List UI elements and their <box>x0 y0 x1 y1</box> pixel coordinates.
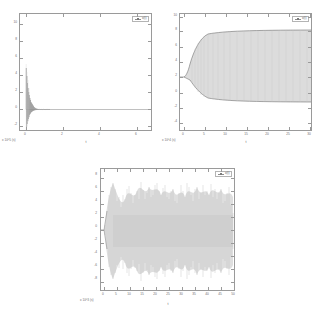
ytick <box>180 108 183 109</box>
xtick <box>226 14 227 17</box>
panel-top-left-axes[interactable]: x(t) <box>19 13 152 131</box>
ytick <box>148 24 151 25</box>
ytick <box>20 75 23 76</box>
xtick <box>26 127 27 130</box>
panel-top-right-plot <box>180 14 311 130</box>
xtick <box>195 287 196 290</box>
xtick <box>247 14 248 17</box>
legend-label: x(t) <box>302 17 306 20</box>
ytick <box>180 62 183 63</box>
ytick-label: 8 <box>2 38 17 41</box>
legend-line-swatch <box>135 19 141 20</box>
ytick <box>231 217 234 218</box>
xtick <box>205 14 206 17</box>
ytick <box>20 126 23 127</box>
ytick <box>180 17 183 18</box>
xtick <box>143 287 144 290</box>
xtick-label: 4 <box>98 133 100 136</box>
ytick <box>20 58 23 59</box>
xtick <box>268 14 269 17</box>
xtick <box>195 169 196 172</box>
panel-top-right: x(t) 0 5 10 15 20 25 30 <box>160 0 319 150</box>
xtick-label: 5 <box>203 133 205 136</box>
x-axis-exponent: x 10^5 (s) <box>2 138 16 142</box>
ytick <box>148 126 151 127</box>
xtick <box>169 287 170 290</box>
ytick-label: 2 <box>81 212 97 215</box>
legend-line-swatch <box>295 19 301 20</box>
ytick-label: 10 <box>2 21 17 24</box>
ytick <box>148 109 151 110</box>
ytick <box>308 31 311 32</box>
xtick <box>234 287 235 290</box>
ytick <box>231 243 234 244</box>
legend-label: x(t) <box>225 172 229 175</box>
x-axis-exponent: x 10^4 (s) <box>162 138 176 142</box>
ytick-label: 0 <box>2 106 17 109</box>
ytick <box>101 217 104 218</box>
legend-line-swatch <box>218 174 224 175</box>
xtick <box>169 169 170 172</box>
ytick-label: -6 <box>81 264 97 267</box>
xtick <box>208 169 209 172</box>
xtick-label: 15 <box>244 133 248 136</box>
ytick-label: -4 <box>81 251 97 254</box>
panel-bottom-axes[interactable]: x(t) <box>100 168 235 291</box>
ytick <box>231 204 234 205</box>
xtick <box>289 127 290 130</box>
ytick <box>308 123 311 124</box>
xtick <box>226 127 227 130</box>
xtick <box>156 287 157 290</box>
panel-top-left-plot <box>20 14 151 130</box>
xtick-label: 10 <box>127 293 131 296</box>
xtick-label: 30 <box>307 133 311 136</box>
xtick <box>221 287 222 290</box>
x-axis-label: t <box>246 140 247 144</box>
ytick <box>101 256 104 257</box>
xtick <box>143 169 144 172</box>
ytick-label: 4 <box>2 72 17 75</box>
xtick <box>137 127 138 130</box>
ytick <box>20 92 23 93</box>
xtick-label: 25 <box>166 293 170 296</box>
ytick <box>101 204 104 205</box>
ytick-label: -2 <box>162 105 177 108</box>
panel-top-right-legend[interactable]: x(t) <box>292 16 309 22</box>
xtick-label: 20 <box>153 293 157 296</box>
ytick <box>180 31 183 32</box>
xtick <box>182 287 183 290</box>
ytick <box>180 123 183 124</box>
ytick-label: 2 <box>2 89 17 92</box>
xtick <box>184 127 185 130</box>
xtick <box>268 127 269 130</box>
xtick <box>100 14 101 17</box>
xtick <box>63 127 64 130</box>
panel-top-left: x(t) 0 2 4 6 -2 0 2 4 6 8 10 x 10^ <box>0 0 159 150</box>
xtick-label: 10 <box>223 133 227 136</box>
xtick <box>289 14 290 17</box>
ytick-label: -2 <box>2 123 17 126</box>
xtick-label: 15 <box>140 293 144 296</box>
ytick-label: 4 <box>162 59 177 62</box>
panel-top-right-axes[interactable]: x(t) <box>179 13 312 131</box>
panel-bottom-curve <box>101 169 234 290</box>
ytick-label: -2 <box>81 238 97 241</box>
ytick <box>231 269 234 270</box>
xtick-label: 45 <box>218 293 222 296</box>
xtick-label: 25 <box>286 133 290 136</box>
ytick <box>20 24 23 25</box>
ytick-label: 2 <box>162 74 177 77</box>
ytick-label: 0 <box>81 225 97 228</box>
ytick-label: 6 <box>81 186 97 189</box>
xtick <box>247 127 248 130</box>
ytick <box>308 47 311 48</box>
xtick <box>117 169 118 172</box>
ytick <box>231 178 234 179</box>
panel-bottom-legend[interactable]: x(t) <box>215 171 232 177</box>
ytick <box>101 243 104 244</box>
panel-top-left-legend[interactable]: x(t) <box>132 16 149 22</box>
xtick <box>63 14 64 17</box>
ytick <box>308 77 311 78</box>
ytick <box>101 269 104 270</box>
xtick <box>182 169 183 172</box>
